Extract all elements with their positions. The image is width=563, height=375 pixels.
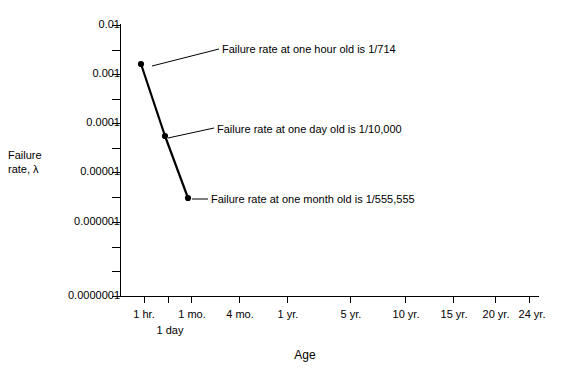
annotation-one-month: Failure rate at one month old is 1/555,5… [211, 193, 415, 206]
leader-line-one-hour [152, 49, 219, 66]
x-tick-mark [529, 296, 530, 303]
y-tick-row: 0.0000001 [0, 296, 120, 297]
x-tick-mark [453, 296, 454, 303]
x-tick-mark [405, 296, 406, 303]
annotation-one-day: Failure rate at one day old is 1/10,000 [217, 123, 402, 136]
data-point-one-month [185, 195, 191, 201]
y-tick-label: 0.000001 [16, 216, 120, 227]
x-tick-label-1hr: 1 hr. [133, 308, 154, 320]
x-tick-mark [144, 296, 145, 303]
y-axis-title: Failure rate, λ [8, 148, 108, 176]
y-minor-tick [112, 247, 120, 248]
x-tick-label-24yr: 24 yr. [519, 308, 546, 320]
y-tick-row: 0.01 [0, 25, 120, 26]
y-axis-line [120, 24, 121, 297]
x-tick-mark [495, 296, 496, 303]
y-minor-tick [112, 197, 120, 198]
failure-rate-chart: 0.01 0.001 0.0001 0.00001 0.000001 0.000… [0, 0, 563, 375]
x-tick-label-15yr: 15 yr. [441, 308, 468, 320]
y-tick-row: 0.0001 [0, 123, 120, 124]
y-minor-tick [112, 148, 120, 149]
y-tick-row: 0.001 [0, 74, 120, 75]
y-tick-row: 0.000001 [0, 222, 120, 223]
y-tick-label: 0.001 [16, 68, 120, 79]
data-point-one-day [162, 133, 168, 139]
y-tick-label: 0.01 [16, 19, 120, 30]
data-point-one-hour [138, 61, 144, 67]
x-tick-label-5yr: 5 yr. [341, 308, 362, 320]
x-tick-label-4mo: 4 mo. [226, 308, 254, 320]
y-minor-tick [112, 50, 120, 51]
x-axis-line [120, 296, 539, 297]
y-tick-label: 0.0000001 [16, 290, 120, 301]
leader-line-one-day [168, 128, 214, 138]
x-tick-mark [191, 296, 192, 303]
y-tick-label: 0.0001 [16, 117, 120, 128]
x-tick-mark [287, 296, 288, 303]
x-tick-mark [239, 296, 240, 303]
x-tick-label-1day: 1 day [157, 324, 184, 336]
x-tick-label-1yr: 1 yr. [278, 308, 299, 320]
x-tick-label-1mo: 1 mo. [178, 308, 206, 320]
y-minor-tick [112, 99, 120, 100]
x-tick-mark [168, 296, 169, 303]
x-tick-label-10yr: 10 yr. [393, 308, 420, 320]
x-axis-title: Age [294, 349, 315, 362]
annotation-one-hour: Failure rate at one hour old is 1/714 [222, 43, 396, 56]
x-tick-label-20yr: 20 yr. [483, 308, 510, 320]
failure-rate-series-line [141, 64, 188, 198]
y-minor-tick [112, 271, 120, 272]
x-tick-mark [350, 296, 351, 303]
